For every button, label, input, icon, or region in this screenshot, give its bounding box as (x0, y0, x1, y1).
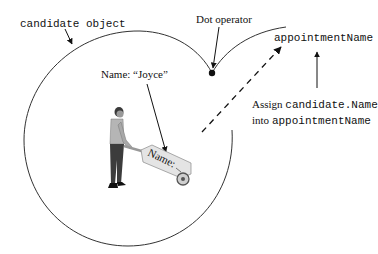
assign-description: Assign candidate.Name into appointmentNa… (252, 96, 378, 128)
object-label-arrow (65, 29, 72, 44)
assign-line-2: into appointmentName (252, 112, 378, 128)
assign-line-2-code: appointmentName (272, 115, 371, 127)
assign-line-1-prefix: Assign (252, 98, 285, 110)
dot-operator-label: Dot operator (196, 14, 252, 25)
assign-line-2-prefix: into (252, 114, 272, 126)
property-arrow (147, 84, 166, 152)
assign-line-1: Assign candidate.Name (252, 96, 378, 112)
property-label: Name: “Joyce” (101, 69, 168, 80)
object-label: candidate object (20, 19, 126, 30)
assign-line-1-code: candidate.Name (285, 99, 377, 111)
object-boundary (24, 31, 232, 246)
dot-operator-point (209, 70, 215, 76)
dot-operator-arrow (213, 27, 219, 68)
target-variable: appointmentName (274, 33, 373, 44)
